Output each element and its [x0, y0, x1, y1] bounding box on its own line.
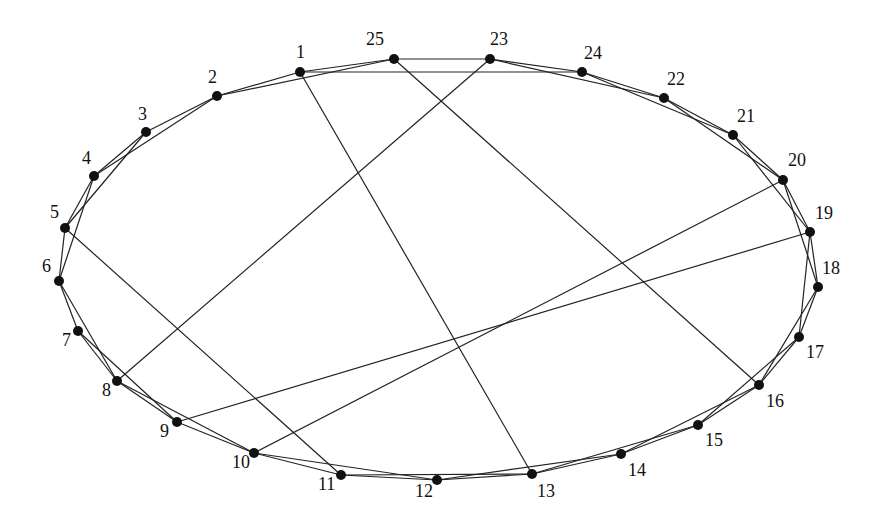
labels-layer: 1234567891011121314151617181920212224232…: [42, 29, 840, 501]
edge-7-8: [78, 331, 117, 381]
edge-15-17: [698, 337, 799, 425]
graph-diagram: 1234567891011121314151617181920212224232…: [0, 0, 871, 532]
node-label-8: 8: [102, 380, 111, 400]
edge-8-23: [117, 59, 490, 381]
node-label-12: 12: [415, 481, 433, 501]
node-15: [693, 420, 703, 430]
node-label-24: 24: [584, 43, 602, 63]
edge-1-13: [300, 72, 532, 474]
edge-5-11: [65, 228, 341, 475]
node-19: [805, 227, 815, 237]
edge-8-9: [117, 381, 177, 422]
edge-14-15: [621, 425, 698, 454]
node-label-21: 21: [737, 106, 755, 126]
node-21: [728, 130, 738, 140]
edge-3-4: [94, 132, 146, 176]
edge-16-18: [759, 287, 818, 385]
nodes-layer: [54, 54, 823, 485]
edge-21-22: [664, 98, 733, 135]
edge-21-24: [582, 72, 733, 135]
node-label-5: 5: [50, 202, 59, 222]
node-label-13: 13: [537, 481, 555, 501]
node-label-7: 7: [62, 330, 71, 350]
edge-3-5: [65, 132, 146, 228]
node-12: [432, 475, 442, 485]
node-label-17: 17: [806, 342, 824, 362]
node-4: [89, 171, 99, 181]
node-1: [295, 67, 305, 77]
node-16: [754, 380, 764, 390]
node-label-3: 3: [138, 104, 147, 124]
edge-2-25: [217, 59, 394, 96]
edge-8-10: [117, 381, 254, 453]
node-label-25: 25: [366, 29, 384, 49]
node-10: [249, 448, 259, 458]
node-24: [577, 67, 587, 77]
node-20: [778, 175, 788, 185]
node-label-6: 6: [42, 256, 51, 276]
node-label-4: 4: [82, 148, 91, 168]
node-label-14: 14: [628, 460, 646, 480]
edge-13-14: [532, 454, 621, 474]
edge-14-16: [621, 385, 759, 454]
edge-9-10: [177, 422, 254, 453]
edge-11-13: [341, 474, 532, 475]
edge-22-24: [582, 72, 664, 98]
edge-18-19: [810, 232, 818, 287]
node-label-10: 10: [232, 452, 250, 472]
node-2: [212, 91, 222, 101]
node-13: [527, 469, 537, 479]
node-23: [485, 54, 495, 64]
node-label-11: 11: [318, 474, 335, 494]
node-18: [813, 282, 823, 292]
edge-20-22: [664, 98, 783, 180]
edge-1-2: [217, 72, 300, 96]
edge-16-25: [394, 59, 759, 385]
edge-6-7: [59, 281, 78, 331]
edges-layer: [59, 59, 818, 480]
edge-2-4: [94, 96, 217, 176]
edge-13-15: [532, 425, 698, 474]
node-7: [73, 326, 83, 336]
edge-9-19: [177, 232, 810, 422]
node-6: [54, 276, 64, 286]
edge-1-25: [300, 59, 394, 72]
node-label-20: 20: [788, 150, 806, 170]
node-11: [336, 470, 346, 480]
node-22: [659, 93, 669, 103]
node-25: [389, 54, 399, 64]
node-17: [794, 332, 804, 342]
node-label-15: 15: [705, 430, 723, 450]
node-label-1: 1: [296, 42, 305, 62]
edge-15-16: [698, 385, 759, 425]
node-8: [112, 376, 122, 386]
edge-2-3: [146, 96, 217, 132]
node-label-16: 16: [766, 391, 784, 411]
edge-20-21: [733, 135, 783, 180]
node-label-9: 9: [160, 421, 169, 441]
node-14: [616, 449, 626, 459]
node-5: [60, 223, 70, 233]
edge-23-24: [490, 59, 582, 72]
node-label-19: 19: [815, 203, 833, 223]
edge-7-9: [78, 331, 177, 422]
edge-19-20: [783, 180, 810, 232]
node-9: [172, 417, 182, 427]
node-label-18: 18: [822, 258, 840, 278]
edge-16-17: [759, 337, 799, 385]
edge-22-23: [490, 59, 664, 98]
node-label-23: 23: [490, 29, 508, 49]
node-label-22: 22: [667, 69, 685, 89]
node-3: [141, 127, 151, 137]
node-label-2: 2: [208, 67, 217, 87]
